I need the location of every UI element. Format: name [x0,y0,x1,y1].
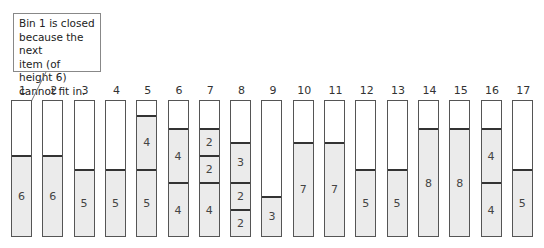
bin-label: 13 [382,84,415,97]
bin-item: 2 [231,182,250,209]
bin-item: 5 [137,169,156,237]
bin-item: 2 [231,209,250,236]
bin-label: 9 [256,84,289,97]
bin-item: 5 [356,169,375,237]
bin: 7422 [199,100,220,237]
callout-line: Bin 1 is closed [19,17,95,31]
bin-label: 2 [37,84,70,97]
callout-line: because the next [19,31,95,58]
bin-item: 4 [169,182,188,236]
bin-item: 8 [450,128,469,236]
bin-item: 4 [169,128,188,182]
bin-label: 1 [6,84,39,97]
bin-label: 17 [507,84,540,97]
bin-item: 3 [231,142,250,183]
bin-label: 11 [319,84,352,97]
bin: 644 [168,100,189,237]
bin-item: 2 [200,155,219,182]
callout-line: item (of height 6) [19,58,95,85]
bin: 158 [449,100,470,237]
bin-label: 4 [100,84,133,97]
bin-label: 7 [194,84,227,97]
bin-item: 4 [200,182,219,236]
bin-label: 15 [444,84,477,97]
callout-box: Bin 1 is closed because the next item (o… [13,13,101,72]
bin-item: 6 [12,155,31,236]
bin: 135 [387,100,408,237]
bin-label: 6 [163,84,196,97]
bin-item: 5 [513,169,532,237]
bin-label: 10 [288,84,321,97]
bin-item: 5 [106,169,125,237]
bin: 554 [136,100,157,237]
bin-label: 8 [225,84,258,97]
bin-label: 3 [69,84,102,97]
bin: 35 [74,100,95,237]
bin-item: 6 [43,155,62,236]
bin-item: 5 [75,169,94,237]
bin-item: 5 [388,169,407,237]
bin: 175 [512,100,533,237]
bin: 93 [261,100,282,237]
bin-item: 7 [294,142,313,237]
bin: 107 [293,100,314,237]
bin-item: 7 [325,142,344,237]
bin: 1644 [481,100,502,237]
bin-item: 4 [482,128,501,182]
bin: 16 [11,100,32,237]
bin-item: 4 [137,115,156,169]
bin: 45 [105,100,126,237]
bin: 125 [355,100,376,237]
bin-item: 2 [200,128,219,155]
bin-label: 5 [131,84,164,97]
bin: 117 [324,100,345,237]
bin-item: 4 [482,182,501,236]
bin-label: 12 [350,84,383,97]
bin: 26 [42,100,63,237]
bin-label: 16 [476,84,509,97]
bin: 8223 [230,100,251,237]
bin-label: 14 [413,84,446,97]
bin: 148 [418,100,439,237]
bin-item: 8 [419,128,438,236]
bin-item: 3 [262,196,281,237]
